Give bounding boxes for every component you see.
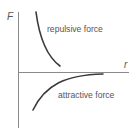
repulsive-force-curve — [36, 12, 60, 66]
attractive-force-label: attractive force — [58, 90, 115, 100]
repulsive-force-label: repulsive force — [47, 24, 103, 34]
y-axis-label: F — [7, 11, 14, 22]
force-distance-diagram: F r repulsive force attractive force — [0, 0, 139, 134]
x-axis-label: r — [124, 59, 128, 70]
